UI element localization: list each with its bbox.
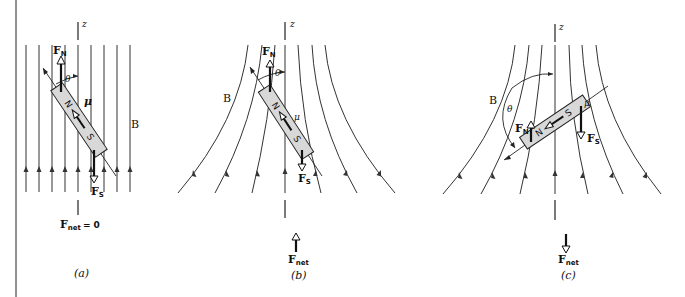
moment-label: μ bbox=[294, 112, 300, 122]
net-force-label: Fnet= 0 bbox=[60, 218, 100, 232]
panel-caption: (c) bbox=[561, 269, 576, 282]
north-force-label: FN bbox=[262, 45, 276, 59]
angle-label: θ bbox=[65, 74, 71, 84]
moment-label: μ bbox=[584, 98, 590, 108]
angle-label: θ bbox=[507, 104, 513, 114]
net-force-arrow-down bbox=[562, 234, 570, 253]
panel-caption: (a) bbox=[74, 267, 89, 280]
z-axis-label: z bbox=[289, 19, 295, 29]
field-label: B bbox=[223, 92, 231, 105]
net-force-label: Fnet bbox=[558, 253, 580, 267]
net-force-label: Fnet bbox=[288, 253, 310, 267]
south-force-label: FS bbox=[298, 172, 311, 186]
z-axis-label: z bbox=[81, 19, 87, 29]
bar-magnet: N S bbox=[51, 83, 107, 157]
z-axis-label: z bbox=[558, 22, 564, 32]
south-force-label: FS bbox=[587, 132, 600, 146]
moment-label: μ bbox=[84, 95, 92, 108]
field-label: B bbox=[489, 94, 497, 107]
angle-label: θ bbox=[275, 68, 281, 78]
magnetic-dipole-figure: z B N S μ θ FN FS Fnet= 0 (a) bbox=[0, 0, 685, 297]
panel-b: z B N S μ θ FN FS Fnet (b) bbox=[178, 19, 395, 282]
panel-a: z B N S μ θ FN FS Fnet= 0 (a) bbox=[24, 19, 140, 280]
net-force-arrow-up bbox=[292, 233, 300, 252]
panel-caption: (b) bbox=[291, 269, 307, 282]
field-label: B bbox=[131, 118, 139, 131]
south-force-label: FS bbox=[91, 185, 104, 199]
north-force-label: FN bbox=[515, 122, 529, 136]
panel-c: z B N S μ θ FN FS Fnet (c) bbox=[443, 22, 661, 282]
